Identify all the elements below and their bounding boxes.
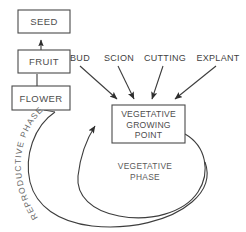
vegetative-growing-point-line3: POINT [135, 130, 163, 140]
diagram-canvas: SEED FRUIT FLOWER BUD SCION CUTTING EXPL… [0, 0, 246, 232]
input-label-bud: BUD [70, 53, 90, 63]
input-label-explant: EXPLANT [196, 53, 239, 63]
input-label-cutting: CUTTING [144, 53, 186, 63]
vegetative-growing-point-line1: VEGETATIVE [121, 109, 176, 119]
vegetative-growing-point-line2: GROWING [126, 120, 170, 130]
input-label-scion: SCION [104, 53, 134, 63]
connector-cutting-to-growing-point [152, 66, 163, 99]
flower-box-label: FLOWER [19, 93, 62, 104]
vegetative-phase-label-line1: VEGETATIVE [118, 161, 172, 171]
plant-life-cycle-diagram: SEED FRUIT FLOWER BUD SCION CUTTING EXPL… [0, 0, 246, 232]
reproductive-phase-label-text: REPRODUCTIVE PHASE [13, 104, 45, 221]
seed-box-label: SEED [30, 16, 57, 27]
connector-scion-to-growing-point [118, 66, 134, 99]
fruit-box-label: FRUIT [29, 56, 59, 67]
connector-bud-to-growing-point [80, 66, 117, 99]
vegetative-phase-label-line2: PHASE [130, 172, 160, 182]
reproductive-phase-label: REPRODUCTIVE PHASE [13, 104, 45, 221]
connector-explant-to-growing-point [175, 66, 216, 99]
